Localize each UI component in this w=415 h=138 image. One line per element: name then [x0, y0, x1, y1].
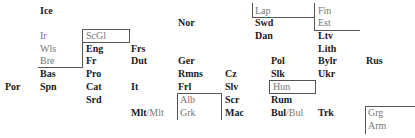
label-slk: Slk	[271, 68, 285, 80]
label-bul: Bul/Bul	[271, 107, 303, 119]
boundary-line	[82, 29, 83, 68]
label-cz: Cz	[225, 68, 237, 80]
label-slv: Slv	[225, 81, 238, 93]
label-ice: Ice	[40, 5, 53, 17]
label-frs: Frs	[131, 43, 145, 55]
label-ltv: Ltv	[318, 30, 333, 42]
boundary-line	[314, 30, 360, 31]
boundary-line	[38, 67, 83, 68]
label-mlt-bold: Mlt	[131, 107, 147, 118]
boundary-line	[365, 106, 415, 107]
label-alb: Alb	[180, 94, 195, 106]
label-arm: Arm	[368, 120, 386, 132]
label-mlt: Mlt/Mlt	[131, 107, 164, 119]
boundary-line	[252, 17, 314, 18]
boundary-line	[252, 3, 253, 17]
label-nor: Nor	[178, 17, 195, 29]
boundary-line	[82, 29, 130, 30]
boundary-line	[177, 93, 221, 94]
label-swd: Swd	[255, 17, 273, 29]
boundary-line	[314, 3, 315, 30]
label-bas: Bas	[40, 68, 56, 80]
label-spn: Spn	[40, 81, 57, 93]
label-mlt-gray: Mlt	[149, 107, 163, 118]
label-srd: Srd	[86, 94, 102, 106]
label-cat: Cat	[86, 81, 102, 93]
label-mac: Mac	[225, 107, 244, 119]
label-pol: Pol	[271, 55, 285, 67]
label-ukr: Ukr	[318, 68, 335, 80]
label-por: Por	[5, 81, 21, 93]
label-bre: Bre	[40, 55, 54, 67]
boundary-box-hun	[269, 80, 316, 94]
label-rmns: Rmns	[178, 68, 203, 80]
label-it: It	[131, 81, 138, 93]
label-trk: Trk	[318, 107, 334, 119]
label-ger: Ger	[178, 55, 195, 67]
label-bul-gray: Bul	[289, 107, 303, 118]
label-ir: Ir	[40, 30, 47, 42]
label-wls: Wls	[40, 43, 56, 55]
label-fr: Fr	[86, 55, 97, 67]
label-est: Est	[318, 17, 331, 29]
boundary-line	[221, 93, 222, 120]
label-dut: Dut	[131, 55, 147, 67]
boundary-line	[177, 93, 178, 120]
boundary-line	[129, 29, 130, 42]
label-rum: Rum	[271, 94, 292, 106]
boundary-line	[82, 42, 130, 43]
label-pro: Pro	[86, 68, 101, 80]
label-grk: Grk	[180, 107, 196, 119]
label-bul-bold: Bul	[271, 107, 286, 118]
label-bylr: Bylr	[318, 55, 337, 67]
label-eng: Eng	[86, 43, 103, 55]
label-rus: Rus	[366, 55, 383, 67]
label-lap: Lap	[255, 5, 271, 17]
label-fin: Fin	[318, 5, 331, 17]
label-lith: Lith	[318, 43, 336, 55]
boundary-line	[365, 106, 366, 134]
label-frl: Frl	[178, 81, 191, 93]
label-scgl: ScGl	[86, 30, 106, 42]
label-dan: Dan	[255, 30, 273, 42]
label-grg: Grg	[368, 107, 383, 119]
label-scr: Scr	[225, 94, 239, 106]
